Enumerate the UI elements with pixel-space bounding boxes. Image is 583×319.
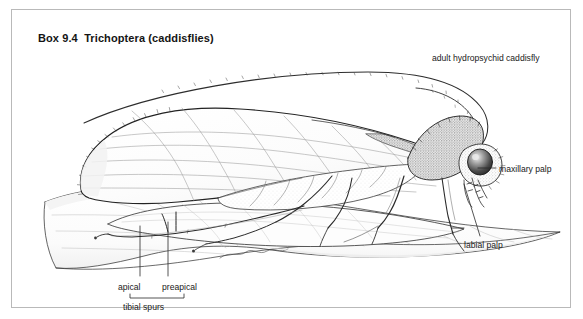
leaf-substrate (44, 186, 560, 270)
hindwing (108, 203, 464, 247)
tibial-spurs (162, 212, 176, 232)
label-apical: apical (118, 282, 140, 292)
maxillary-palp (472, 178, 487, 207)
thorax-head (408, 116, 505, 207)
compound-eye (468, 149, 493, 175)
leader-labial (464, 184, 480, 236)
forewing (77, 108, 455, 204)
labial-palp (464, 180, 473, 207)
label-preapical: preapical (162, 282, 197, 292)
apical-spur (162, 214, 168, 232)
antennae (84, 72, 488, 151)
label-maxillary-palp: maxillary palp (499, 164, 552, 174)
abdomen (218, 164, 424, 210)
legs (94, 176, 464, 253)
label-adult-hydropsychid-caddisfly: adult hydropsychid caddisfly (432, 53, 539, 63)
figure-screenshot: Box 9.4 Trichoptera (caddisflies) adult … (0, 0, 583, 319)
leader-lines (130, 168, 496, 298)
box-title: Box 9.4 Trichoptera (caddisflies) (38, 32, 214, 44)
label-tibial-spurs: tibial spurs (123, 302, 164, 312)
label-labial-palp: labial palp (464, 240, 503, 250)
bracket-tibial-spurs (130, 294, 184, 298)
figure-box: Box 9.4 Trichoptera (caddisflies) adult … (11, 9, 571, 308)
